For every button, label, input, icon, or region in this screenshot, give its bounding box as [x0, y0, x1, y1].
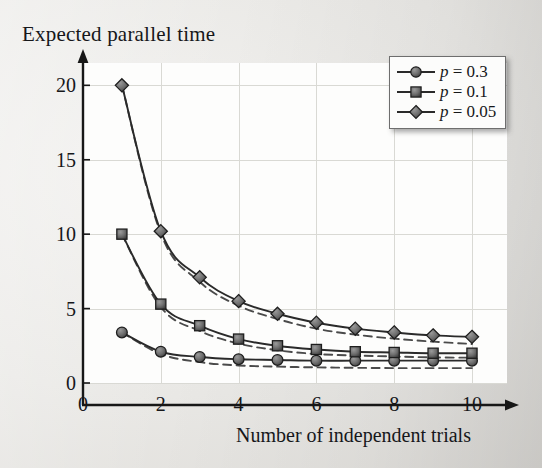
data-point-circle [117, 327, 128, 338]
legend-marker-diamond-icon [395, 104, 437, 120]
data-point-square [117, 229, 127, 239]
data-point-diamond [426, 329, 439, 342]
legend-marker-circle-icon [395, 64, 437, 80]
reference-curve [122, 332, 472, 368]
data-point-square [156, 299, 166, 309]
data-point-square [311, 344, 321, 354]
data-point-circle [194, 352, 205, 363]
legend-marker-square-icon [395, 84, 437, 100]
legend-label: p = 0.05 [437, 102, 496, 122]
data-point-circle [155, 346, 166, 357]
legend: p = 0.3p = 0.1p = 0.05 [389, 56, 506, 129]
data-point-diamond [388, 326, 401, 339]
reference-curve [122, 234, 472, 358]
legend-item: p = 0.1 [395, 82, 496, 102]
data-point-square [428, 348, 438, 358]
x-axis-arrowhead [505, 400, 519, 411]
data-point-diamond [465, 330, 478, 343]
data-point-circle [233, 354, 244, 365]
data-point-square [467, 348, 477, 358]
legend-label: p = 0.3 [437, 62, 488, 82]
y-axis-arrowhead [78, 49, 89, 63]
data-point-diamond [154, 225, 167, 238]
data-point-square [234, 334, 244, 344]
data-point-diamond [232, 295, 245, 308]
data-point-square [350, 347, 360, 357]
data-point-square [389, 347, 399, 357]
data-point-circle [311, 355, 322, 366]
legend-item: p = 0.05 [395, 102, 496, 122]
chart-figure: Expected parallel time 05101520 0246810 … [0, 0, 542, 468]
data-point-square [195, 321, 205, 331]
data-point-circle [272, 355, 283, 366]
legend-item: p = 0.3 [395, 62, 496, 82]
data-point-diamond [115, 79, 128, 92]
legend-label: p = 0.1 [437, 82, 488, 102]
data-curve [122, 234, 472, 353]
data-point-square [272, 341, 282, 351]
